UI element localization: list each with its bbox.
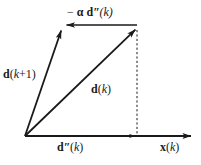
vector-d-symbol: d <box>3 67 10 81</box>
minus-sign: − <box>67 5 74 19</box>
d-k-vector <box>25 30 135 136</box>
argument-plus-one: +1) <box>19 67 36 81</box>
vector-diagram-figure: − α d″(k) d(k+1) d(k) d″(k) x(k) <box>0 0 201 165</box>
paren-close: ) <box>107 82 111 96</box>
vector-d-symbol: d <box>91 82 98 96</box>
paren-close: ) <box>175 140 179 154</box>
paren-close: ) <box>79 140 83 154</box>
label-d-second-k: d″(k) <box>57 141 83 153</box>
argument-k: (k) <box>100 5 113 19</box>
label-d-k: d(k) <box>91 83 111 95</box>
label-x-k-axis: x(k) <box>160 141 179 153</box>
label-d-k-plus-1: d(k+1) <box>3 68 36 80</box>
label-minus-alpha-d-second-k: − α d″(k) <box>67 6 113 18</box>
vector-d-symbol: d <box>57 140 64 154</box>
d-k-plus-1-vector <box>25 31 61 137</box>
